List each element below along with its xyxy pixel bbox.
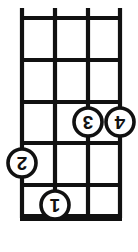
chord-diagram-canvas: 1 2 3 4 [0,0,138,252]
finger-dot-4-label: 4 [114,112,125,133]
finger-dot-2[interactable]: 2 [8,149,36,177]
chord-diagram: 1 2 3 4 [0,0,138,252]
nut-bar [20,214,122,221]
finger-dot-3[interactable]: 3 [74,108,102,136]
fingering-dots: 1 2 3 4 [8,108,134,219]
finger-dot-3-label: 3 [83,112,94,133]
finger-dot-2-label: 2 [17,153,28,174]
finger-dot-4[interactable]: 4 [106,108,134,136]
finger-dot-1[interactable]: 1 [41,191,69,219]
finger-dot-1-label: 1 [49,195,60,216]
